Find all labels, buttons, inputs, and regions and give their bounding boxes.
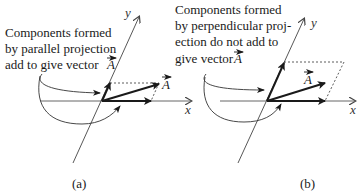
- caption-b-line-3: ection do not add to: [175, 34, 278, 49]
- vector-b: [267, 83, 325, 101]
- caption-a-line-3: add to give vector: [5, 57, 99, 72]
- vector-a: [102, 84, 159, 101]
- panel-label-a: (a): [72, 176, 86, 191]
- caption-a-line-1: Components formed: [5, 25, 112, 40]
- vector-label-a: A: [161, 77, 170, 92]
- pointer-arrow-b-y-component: [204, 74, 264, 90]
- caption-a-line-2: by parallel projection: [5, 41, 117, 56]
- dashed-line-b-side: [325, 62, 344, 101]
- caption-b-line-1: Components formed: [175, 2, 282, 17]
- panel-label-b: (b): [300, 176, 315, 191]
- pointer-arrow-a-y-component: [40, 74, 100, 93]
- x-axis-label-a: x: [184, 102, 191, 117]
- y-axis-label-a: y: [123, 5, 131, 20]
- y-component-vector-b: [267, 63, 284, 101]
- panel-b: Components formed by perpendicular proj-…: [175, 2, 356, 191]
- panel-a: Components formed by parallel projection…: [5, 5, 191, 191]
- y-axis-label-b: y: [309, 15, 317, 30]
- caption-b-line-4: give vector: [175, 51, 234, 66]
- caption-a-vector-symbol: A: [106, 57, 115, 72]
- x-axis-label-b: x: [349, 102, 356, 117]
- caption-b-vector-symbol: A: [233, 51, 242, 66]
- vector-label-b: A: [303, 72, 312, 87]
- caption-b-line-2: by perpendicular proj-: [175, 18, 291, 33]
- vector-projection-diagram: Components formed by parallel projection…: [0, 0, 360, 196]
